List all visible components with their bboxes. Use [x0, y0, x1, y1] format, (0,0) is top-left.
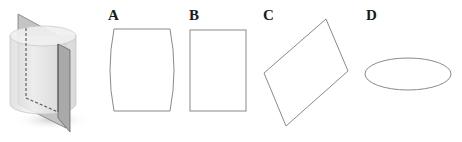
- option-b-label: B: [189, 8, 199, 23]
- option-d-shape: [365, 58, 451, 90]
- option-c-label: C: [263, 8, 274, 23]
- cylinder-with-plane: [10, 14, 90, 132]
- cutting-plane-front: [58, 44, 70, 132]
- option-a-label: A: [108, 8, 119, 23]
- option-d-label: D: [366, 8, 377, 23]
- option-b-shape: [190, 30, 246, 111]
- option-a-shape: [110, 29, 174, 111]
- cylinder-top: [10, 26, 76, 46]
- diagram-canvas: [0, 0, 462, 142]
- option-c-shape: [264, 19, 348, 126]
